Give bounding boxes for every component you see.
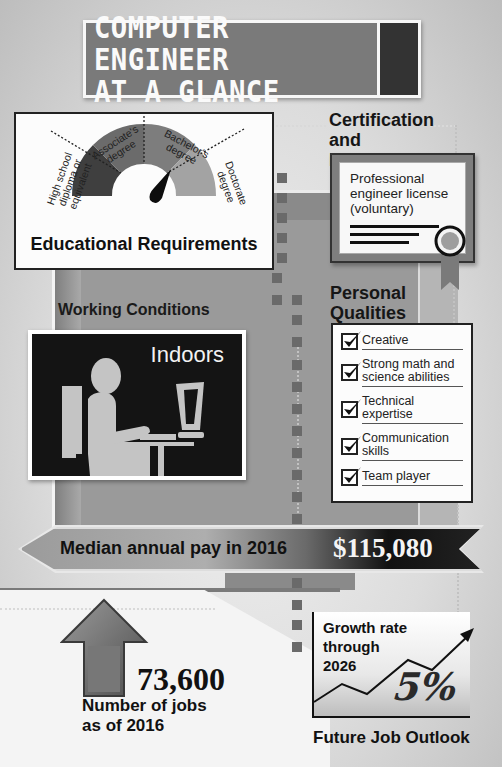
ribbon-seal-icon xyxy=(432,224,468,296)
education-card: High school diploma or equivalent Associ… xyxy=(14,112,274,270)
personal-qualities-list: Creative Strong math and science abiliti… xyxy=(331,323,473,503)
list-item: Creative xyxy=(341,333,463,350)
jobs-value: 73,600 xyxy=(137,661,225,698)
growth-value: 5% xyxy=(393,664,460,709)
education-heading: Educational Requirements xyxy=(16,234,272,255)
working-conditions-card: Indoors xyxy=(28,330,246,480)
dotted-connector xyxy=(276,125,326,127)
outlook-label: Future Job Outlook xyxy=(313,728,470,748)
checkbox xyxy=(341,364,358,381)
dotted-connector xyxy=(455,125,457,153)
list-item: Communication skills xyxy=(341,432,463,461)
checkbox xyxy=(341,438,358,455)
checkmark-icon xyxy=(342,435,362,455)
pay-value: $115,080 xyxy=(333,533,433,564)
checkbox xyxy=(341,333,358,350)
list-item: Strong math and science abilities xyxy=(341,358,463,387)
list-item: Technical expertise xyxy=(341,395,463,424)
dotted-connector xyxy=(457,505,459,525)
personal-qualities-heading: Personal Qualities xyxy=(330,283,430,323)
checkbox xyxy=(341,401,358,418)
page-title: COMPUTER ENGINEER AT A GLANCE xyxy=(94,11,343,107)
checkmark-icon xyxy=(342,466,362,486)
certificate-text: Professional engineer license (voluntary… xyxy=(350,171,455,216)
title-accent-block xyxy=(380,23,418,95)
dotted-connector xyxy=(457,573,459,613)
gauge-pointer-icon xyxy=(150,169,172,203)
jobs-label: Number of jobs as of 2016 xyxy=(82,696,222,736)
person-at-computer-icon xyxy=(32,334,242,476)
checkmark-icon xyxy=(342,330,362,350)
checkmark-icon xyxy=(342,361,362,381)
title-banner: COMPUTER ENGINEER AT A GLANCE xyxy=(83,20,421,98)
checkbox xyxy=(341,469,358,486)
pay-label: Median annual pay in 2016 xyxy=(60,538,287,559)
list-item: Team player xyxy=(341,469,463,486)
checkmark-icon xyxy=(342,398,362,418)
working-conditions-heading: Working Conditions xyxy=(58,301,210,319)
